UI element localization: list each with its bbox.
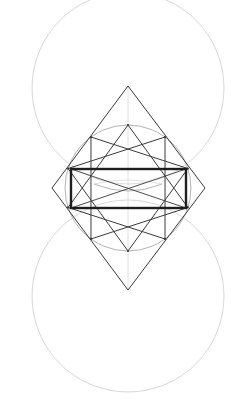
star-edge — [68, 207, 165, 239]
star-edge — [128, 169, 188, 251]
star-vertex-dot — [67, 206, 69, 208]
star-vertex-dot — [90, 136, 92, 138]
diamond-outline — [52, 86, 205, 290]
star-vertex-dot — [127, 124, 129, 126]
star-edge — [68, 125, 128, 207]
geometric-diagram — [0, 0, 242, 420]
star-edge — [91, 207, 188, 239]
star-vertex-dot — [90, 238, 92, 240]
star-vertex-dot — [164, 238, 166, 240]
diamond — [52, 86, 205, 290]
star-edge — [91, 137, 188, 169]
star-vertex-dot — [67, 167, 69, 169]
star-vertex-dot — [164, 136, 166, 138]
star-vertex-dot — [127, 250, 129, 252]
star-edge — [68, 169, 128, 251]
star-edge — [128, 125, 188, 207]
star-edge — [68, 137, 165, 169]
diagram-canvas — [0, 0, 242, 420]
bold-rectangle — [71, 169, 186, 208]
